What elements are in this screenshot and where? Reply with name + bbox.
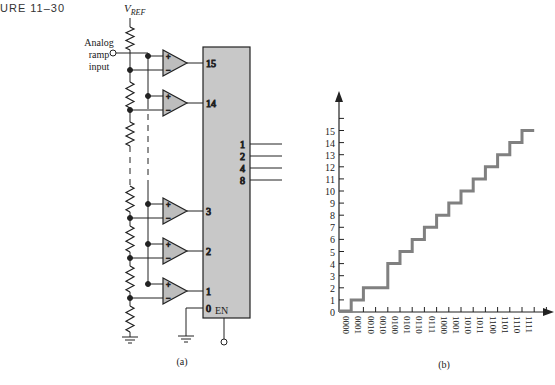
- svg-text:+: +: [166, 200, 171, 209]
- comparator-1: +−: [128, 278, 204, 304]
- x-tick-0010: 0010: [366, 316, 376, 335]
- missing-code-staircase-chart: 0123456789101112131415 00000001001000100…: [325, 91, 554, 371]
- encoder-input-1: 1: [206, 286, 211, 297]
- analog-input-bus: [130, 53, 148, 283]
- y-tick-14: 14: [325, 138, 335, 149]
- y-tick-10: 10: [325, 186, 335, 197]
- vref-label: VREF: [124, 2, 146, 17]
- x-tick-1000: 1000: [439, 316, 449, 335]
- comparator-3: +−: [128, 198, 204, 224]
- chart-axes: [335, 91, 554, 316]
- x-tick-1101: 1101: [500, 316, 510, 334]
- comparator-15: +−: [128, 50, 204, 76]
- x-tick-1001: 1001: [451, 316, 461, 334]
- x-tick-0100: 0100: [390, 316, 400, 335]
- svg-text:+: +: [166, 92, 171, 101]
- encoder-input-3: 3: [206, 206, 211, 217]
- comparator-bank: +−+−+−+−+−: [128, 50, 204, 304]
- y-tick-11: 11: [325, 174, 335, 185]
- y-tick-8: 8: [330, 210, 335, 221]
- encoder-output-label-2: 2: [240, 151, 245, 162]
- y-tick-2: 2: [330, 283, 335, 294]
- encoder-input-0: 0: [206, 303, 211, 314]
- svg-text:+: +: [166, 52, 171, 61]
- x-tick-0101: 0101: [402, 316, 412, 334]
- y-tick-4: 4: [330, 259, 335, 270]
- comparator-2: +−: [128, 238, 204, 264]
- y-tick-labels: 0123456789101112131415: [325, 118, 344, 318]
- y-tick-1: 1: [330, 295, 335, 306]
- staircase-series: [339, 131, 534, 312]
- x-tick-0001: 0001: [353, 316, 363, 334]
- x-tick-1100: 1100: [488, 316, 498, 334]
- x-axis-arrow-icon: [543, 308, 554, 316]
- y-tick-0: 0: [330, 307, 335, 318]
- y-tick-13: 13: [325, 150, 335, 161]
- y-tick-5: 5: [330, 247, 335, 258]
- svg-text:Analog: Analog: [84, 37, 113, 48]
- y-tick-12: 12: [325, 162, 335, 173]
- y-tick-6: 6: [330, 234, 335, 245]
- svg-text:−: −: [166, 106, 171, 115]
- svg-text:input: input: [89, 61, 110, 72]
- y-tick-15: 15: [325, 126, 335, 137]
- y-tick-7: 7: [330, 222, 335, 233]
- comparator-14: +−: [128, 90, 204, 116]
- svg-text:−: −: [166, 254, 171, 263]
- encoder-output-label-4: 4: [240, 163, 245, 174]
- svg-text:+: +: [166, 240, 171, 249]
- encoder-input-14: 14: [206, 98, 216, 109]
- x-tick-labels: 0000000100100010010001010110011110001001…: [341, 307, 546, 335]
- flash-adc-circuit: VREF +−+−+−+−+− 15143210 1248 EN Analog …: [84, 2, 282, 368]
- x-tick-1011: 1011: [475, 316, 485, 334]
- x-tick-1111: 1111: [524, 316, 534, 333]
- y-tick-3: 3: [330, 271, 335, 282]
- svg-text:−: −: [166, 214, 171, 223]
- analog-input-terminal: [110, 50, 116, 56]
- encoder-input-2: 2: [206, 246, 211, 257]
- x-tick-1110: 1110: [512, 316, 522, 334]
- encoder-output-label-1: 1: [240, 139, 245, 150]
- x-tick-0110: 0110: [414, 316, 424, 334]
- x-tick-0000: 0000: [341, 316, 351, 335]
- encoder-output-label-8: 8: [240, 175, 245, 186]
- y-axis-arrow-icon: [335, 91, 343, 102]
- y-tick-9: 9: [330, 198, 335, 209]
- encoder-input-15: 15: [206, 58, 216, 69]
- panel-b-caption: (b): [438, 359, 450, 371]
- x-tick-1010: 1010: [463, 316, 473, 335]
- svg-text:ramp: ramp: [89, 49, 110, 60]
- panel-a-caption: (a): [176, 356, 187, 368]
- x-tick-0010: 0010: [378, 316, 388, 335]
- enable-label: EN: [215, 305, 228, 316]
- svg-text:+: +: [166, 280, 171, 289]
- ground-icon-encoder: [178, 336, 194, 342]
- svg-text:−: −: [166, 66, 171, 75]
- flash-adc-figure: VREF +−+−+−+−+− 15143210 1248 EN Analog …: [0, 0, 555, 385]
- enable-terminal: [221, 339, 227, 345]
- svg-text:−: −: [166, 294, 171, 303]
- x-tick-0111: 0111: [427, 316, 437, 333]
